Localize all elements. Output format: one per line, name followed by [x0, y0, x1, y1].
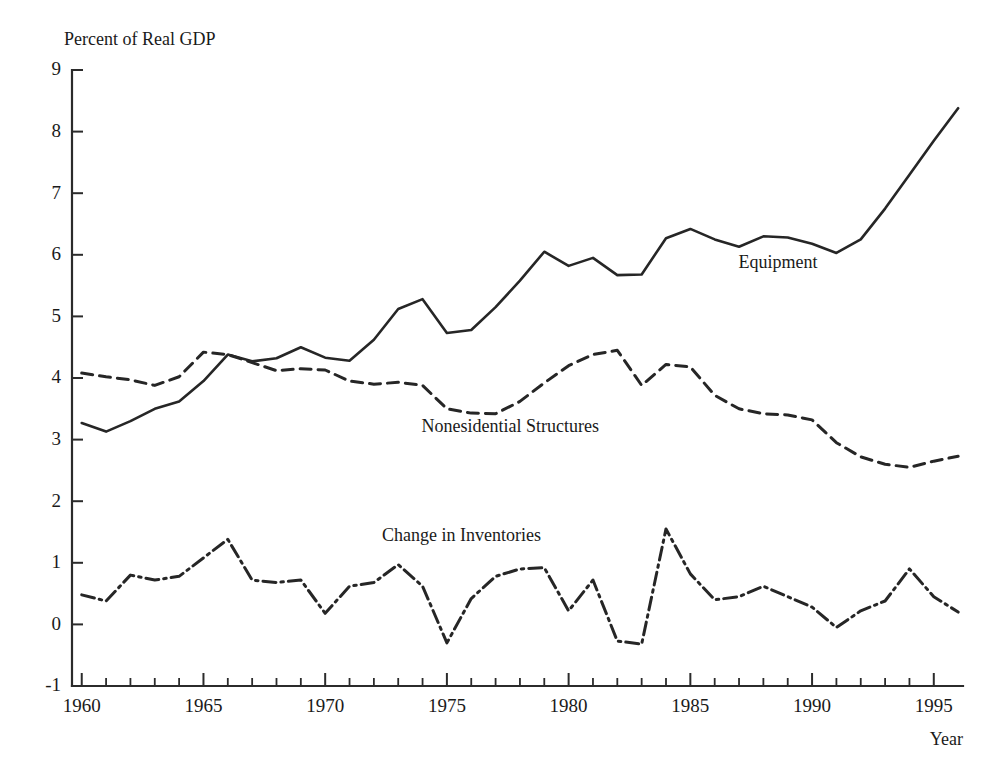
series-group	[82, 108, 958, 644]
y-axis-title: Percent of Real GDP	[64, 29, 215, 49]
series-label-change-in-inventories: Change in Inventories	[382, 525, 541, 545]
y-tick-label: 2	[52, 490, 62, 511]
series-line-nonesidential-structures	[82, 350, 958, 467]
series-label-nonesidential-structures: Nonesidential Structures	[421, 416, 598, 436]
y-tick-label: 4	[52, 366, 62, 387]
x-tick-label: 1995	[915, 695, 953, 716]
x-tick-label: 1970	[306, 695, 344, 716]
y-axis-ticks: -10123456789	[45, 58, 83, 695]
y-tick-label: 6	[52, 243, 62, 264]
series-label-equipment: Equipment	[738, 252, 817, 272]
y-tick-label: 1	[52, 551, 62, 572]
x-axis-ticks: 19601965197019751980198519901995	[63, 673, 953, 716]
y-tick-label: -1	[45, 674, 61, 695]
series-labels-group: EquipmentNonesidential StructuresChange …	[382, 252, 817, 545]
y-tick-label: 5	[52, 305, 62, 326]
chart-figure: Percent of Real GDP Year -10123456789 19…	[0, 0, 1001, 776]
series-line-change-in-inventories	[82, 529, 958, 644]
line-chart: Percent of Real GDP Year -10123456789 19…	[0, 0, 1001, 776]
x-tick-label: 1985	[671, 695, 709, 716]
x-tick-label: 1965	[184, 695, 222, 716]
y-tick-label: 3	[52, 428, 62, 449]
x-tick-label: 1980	[550, 695, 588, 716]
x-tick-label: 1960	[63, 695, 101, 716]
y-tick-label: 0	[52, 613, 62, 634]
y-tick-label: 7	[52, 182, 62, 203]
series-line-equipment	[82, 108, 958, 431]
y-tick-label: 9	[52, 58, 62, 79]
y-tick-label: 8	[52, 120, 62, 141]
x-tick-label: 1975	[428, 695, 466, 716]
x-axis-title: Year	[930, 729, 963, 749]
x-tick-label: 1990	[793, 695, 831, 716]
